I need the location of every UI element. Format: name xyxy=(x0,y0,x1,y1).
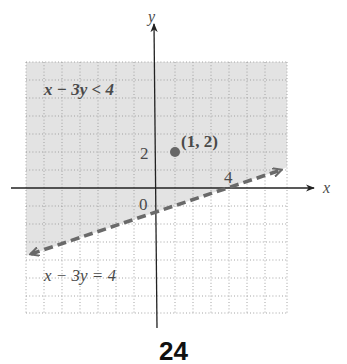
inequality-label: x − 3y < 4 xyxy=(43,80,114,99)
figure-number: 24 xyxy=(0,338,347,364)
equation-label: x − 3y = 4 xyxy=(43,266,117,285)
x-axis-label: x xyxy=(322,179,330,196)
point-label: (1, 2) xyxy=(181,132,218,151)
y-axis-label: y xyxy=(146,8,156,26)
test-point xyxy=(170,147,180,157)
x-tick-label-4: 4 xyxy=(224,168,233,187)
y-tick-label-2: 2 xyxy=(140,144,149,163)
origin-label: 0 xyxy=(139,195,148,214)
